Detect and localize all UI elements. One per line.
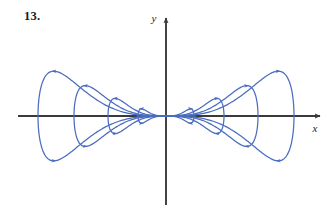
y-axis-label: y bbox=[151, 12, 157, 24]
figure-root: 13. y x bbox=[0, 0, 335, 210]
axes-group: y x bbox=[18, 12, 320, 205]
phase-portrait-plot: y x bbox=[0, 0, 335, 210]
x-axis-label: x bbox=[312, 122, 318, 134]
